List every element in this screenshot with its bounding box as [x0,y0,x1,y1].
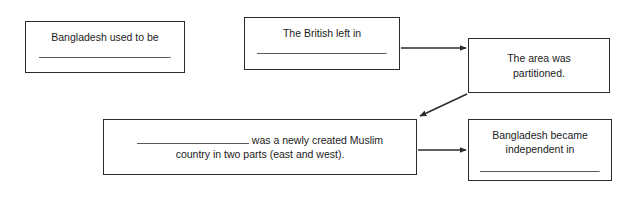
blank-period-used-to-be: . [169,48,172,60]
box-label-became-independent: Bangladesh became independent in [492,128,588,157]
blank-period-became-independent: . [598,162,601,174]
blank-fill-in-became-independent[interactable] [480,161,598,172]
box-label-partitioned: The area was partitioned. [507,51,571,80]
box-bangladesh-became-independent: Bangladesh became independent in . [468,119,612,181]
blank-line-row-used-to-be: . [39,47,172,61]
arrow-partitioned-to-muslim-country [420,94,467,116]
box-the-area-was-partitioned: The area was partitioned. [468,38,610,93]
blank-line-row-became-independent: . [480,161,601,175]
worksheet-diagram: Bangladesh used to be . The British left… [0,0,644,198]
blank-fill-in-british-left[interactable] [257,44,385,55]
blank-period-british-left: . [385,44,388,56]
blank-fill-in-muslim-country[interactable] [137,133,249,144]
box-the-british-left-in: The British left in . [244,17,400,70]
blank-line-row-british-left: . [257,43,388,57]
box-label-used-to-be: Bangladesh used to be [51,30,158,44]
box-label-muslim-country: was a newly created Muslim country in tw… [137,133,383,162]
box-label-british-left: The British left in [283,26,361,40]
box-newly-created-muslim-country: was a newly created Muslim country in tw… [103,119,417,175]
blank-fill-in-used-to-be[interactable] [39,48,169,59]
box-bangladesh-used-to-be: Bangladesh used to be . [25,21,185,73]
